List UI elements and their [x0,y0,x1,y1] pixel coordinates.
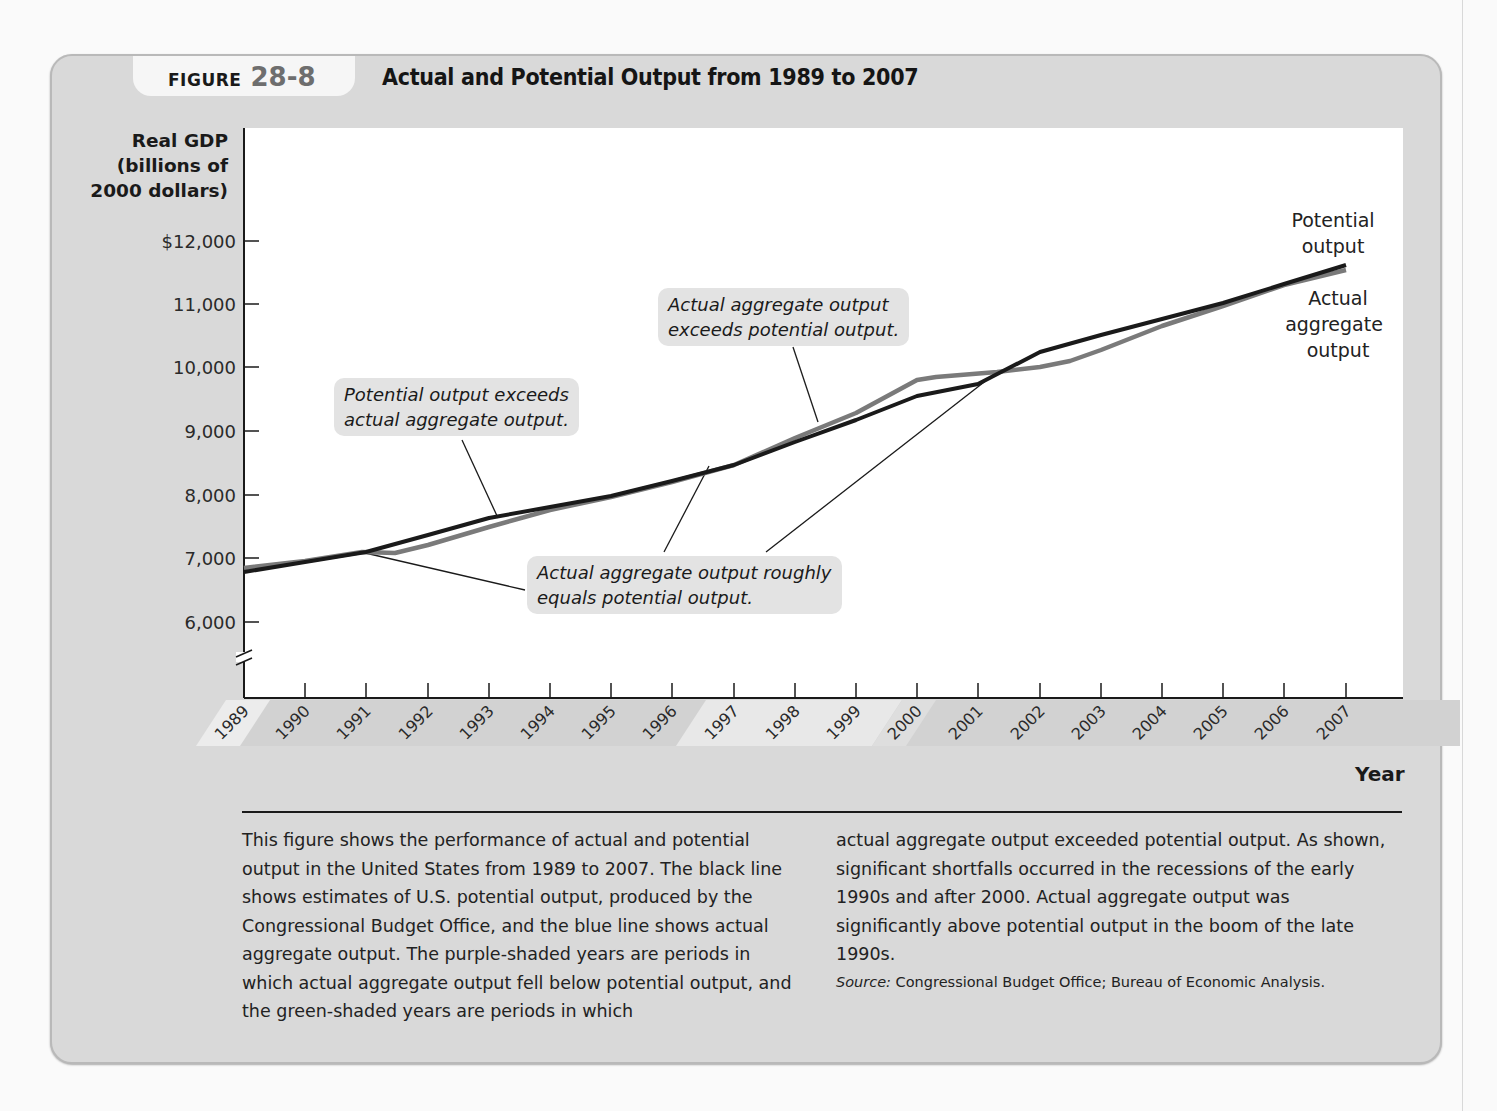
annotation-potential-exceeds: Potential output exceeds actual aggregat… [334,378,579,436]
annotation-actual-exceeds: Actual aggregate output exceeds potentia… [658,288,909,346]
svg-text:Actual: Actual [1308,287,1368,309]
caption-left-column: This figure shows the performance of act… [242,826,802,1026]
caption-right-column: actual aggregate output exceeded potenti… [836,826,1396,995]
annotation-line: Potential output exceeds [344,382,569,407]
svg-text:output: output [1307,339,1370,361]
annotation-line: Actual aggregate output roughly [537,560,832,585]
annotation-line: exceeds potential output. [668,317,899,342]
svg-text:$12,000: $12,000 [162,231,236,252]
svg-text:7,000: 7,000 [184,548,236,569]
annotation-roughly-equal: Actual aggregate output roughly equals p… [527,556,842,614]
svg-text:10,000: 10,000 [173,357,236,378]
svg-text:8,000: 8,000 [184,485,236,506]
y-tick-labels: $12,000 11,000 10,000 9,000 8,000 7,000 … [162,231,236,633]
caption-right-text: actual aggregate output exceeded potenti… [836,826,1396,969]
x-axis-title: Year [1355,762,1405,786]
source-note: Source: Congressional Budget Office; Bur… [836,969,1396,995]
annotation-line: equals potential output. [537,585,832,610]
caption-divider [242,811,1402,813]
annotation-line: actual aggregate output. [344,407,569,432]
annotation-line: Actual aggregate output [668,292,899,317]
svg-text:Potential: Potential [1291,209,1374,231]
svg-text:11,000: 11,000 [173,294,236,315]
svg-text:6,000: 6,000 [184,612,236,633]
source-label: Source: [836,974,891,990]
svg-text:9,000: 9,000 [184,421,236,442]
source-text: Congressional Budget Office; Bureau of E… [891,974,1325,990]
svg-text:output: output [1302,235,1365,257]
svg-text:aggregate: aggregate [1285,313,1383,335]
